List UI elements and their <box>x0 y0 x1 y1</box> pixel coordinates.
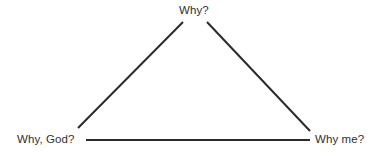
vertex-label-bottom-right: Why me? <box>315 132 364 146</box>
triangle-left-edge <box>78 22 183 128</box>
triangle-right-edge <box>207 22 310 131</box>
vertex-label-bottom-left: Why, God? <box>17 132 75 146</box>
diagram-canvas: Why? Why, God? Why me? <box>0 0 382 156</box>
vertex-label-apex: Why? <box>179 3 209 17</box>
